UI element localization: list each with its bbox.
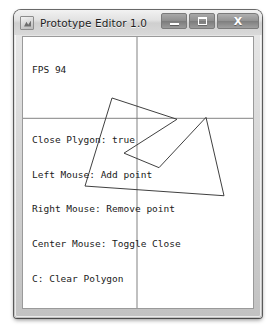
close-button[interactable]: X xyxy=(217,13,259,29)
title-bar[interactable]: Prototype Editor 1.0 X xyxy=(14,10,262,35)
hud-line-print-polygon: Space Bar: Print Polygon xyxy=(32,308,181,309)
maximize-button[interactable] xyxy=(189,13,215,29)
hud-line-clear-polygon: C: Clear Polygon xyxy=(32,273,181,285)
screenshot-root: Prototype Editor 1.0 X xyxy=(0,0,276,335)
hud-line-right-mouse: Right Mouse: Remove point xyxy=(32,203,181,215)
window-title: Prototype Editor 1.0 xyxy=(40,17,147,29)
hud-spacer xyxy=(32,99,181,111)
drawing-canvas[interactable]: FPS 94 Close Plygon: true Left Mouse: Ad… xyxy=(22,36,254,309)
window-controls: X xyxy=(161,13,259,29)
maximize-icon xyxy=(198,17,207,25)
hud-overlay: FPS 94 Close Plygon: true Left Mouse: Ad… xyxy=(32,41,181,309)
application-window: Prototype Editor 1.0 X xyxy=(14,10,262,318)
minimize-icon xyxy=(170,23,179,25)
close-icon: X xyxy=(234,16,242,27)
hud-line-center-mouse: Center Mouse: Toggle Close xyxy=(32,238,181,250)
hud-line-close-polygon: Close Plygon: true xyxy=(32,134,181,146)
fps-readout: FPS 94 xyxy=(32,64,181,76)
application-icon xyxy=(20,16,34,30)
minimize-button[interactable] xyxy=(161,13,187,29)
hud-line-left-mouse: Left Mouse: Add point xyxy=(32,169,181,181)
